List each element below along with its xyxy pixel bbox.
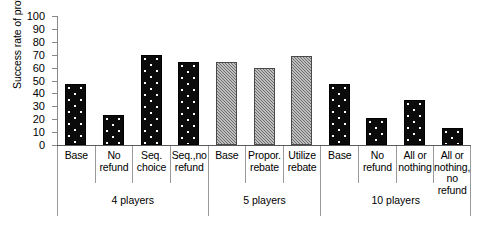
group-label: 10 players — [371, 194, 419, 206]
y-axis-tick-label: 50 — [17, 75, 45, 86]
bar — [291, 56, 312, 145]
y-axis-tick-label: 0 — [17, 140, 45, 151]
bar — [329, 84, 350, 145]
bar — [366, 118, 387, 145]
group-label-cell: 4 players — [57, 183, 208, 216]
group-label: 4 players — [111, 194, 154, 206]
condition-label: No refund — [100, 150, 129, 173]
condition-label: Base — [215, 150, 238, 162]
bar — [65, 84, 86, 145]
condition-label-cell: All or nothing — [396, 146, 434, 183]
bar-chart: Success rate of provision (%) 1009080706… — [0, 0, 478, 227]
y-axis-tick-label: 30 — [17, 101, 45, 112]
y-axis-tick-label: 80 — [17, 36, 45, 47]
y-axis-tick-label: 90 — [17, 23, 45, 34]
condition-label-cell: Base — [320, 146, 358, 183]
condition-label-cell: Propor. rebate — [245, 146, 283, 183]
condition-label: Seq.,no refund — [172, 150, 207, 173]
condition-label-row: BaseNo refundSeq. choiceSeq.,no refundBa… — [57, 146, 471, 183]
condition-label-cell: Seq.,no refund — [170, 146, 208, 183]
y-axis-tick-label: 10 — [17, 127, 45, 138]
y-axis-tick-label: 70 — [17, 49, 45, 60]
group-label-cell: 5 players — [208, 183, 321, 216]
bar — [178, 62, 199, 145]
condition-label: Base — [328, 150, 351, 162]
bar — [442, 128, 463, 145]
condition-label-cell: No refund — [95, 146, 133, 183]
condition-label-cell: Base — [208, 146, 246, 183]
condition-label: All or nothing — [398, 150, 431, 173]
bar-series — [57, 16, 471, 145]
condition-label: Propor. rebate — [248, 150, 281, 173]
condition-label: Utilize rebate — [288, 150, 317, 173]
group-label-cell: 10 players — [320, 183, 471, 216]
bar — [141, 55, 162, 145]
bar — [254, 68, 275, 145]
condition-label-cell: No refund — [358, 146, 396, 183]
group-label-row: 4 players5 players10 players — [57, 183, 471, 216]
condition-label-cell: Seq. choice — [132, 146, 170, 183]
x-axis-label-table: BaseNo refundSeq. choiceSeq.,no refundBa… — [57, 146, 471, 216]
condition-label: Seq. choice — [137, 150, 166, 173]
condition-label: Base — [65, 150, 88, 162]
condition-label-cell: All or nothing, no refund — [433, 146, 471, 183]
y-axis-tick-label: 100 — [17, 11, 45, 22]
y-axis-tick-label: 20 — [17, 114, 45, 125]
y-axis-tick-label: 40 — [17, 88, 45, 99]
y-axis-tick-label: 60 — [17, 62, 45, 73]
bar — [216, 62, 237, 145]
condition-label-cell: Utilize rebate — [283, 146, 321, 183]
condition-label: No refund — [363, 150, 392, 173]
condition-label-cell: Base — [57, 146, 95, 183]
bar — [103, 115, 124, 145]
bar — [404, 100, 425, 145]
group-label: 5 players — [243, 194, 286, 206]
plot-area: 1009080706050403020100 — [57, 16, 471, 146]
